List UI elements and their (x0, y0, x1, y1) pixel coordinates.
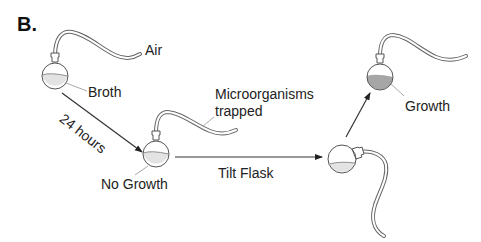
growth-label: Growth (405, 99, 450, 113)
flask-neck (352, 147, 364, 159)
flask-neck (51, 53, 59, 62)
flask-growth (367, 35, 466, 96)
air-label: Air (145, 43, 162, 57)
tilt-flask-label: Tilt Flask (218, 166, 273, 180)
broth-leader-line (66, 83, 87, 91)
swan-neck-tube (360, 152, 386, 236)
trapped-leader-line (203, 117, 214, 126)
swan-neck-tube (380, 35, 466, 60)
trapped-label: trapped (215, 104, 262, 118)
no-growth-label: No Growth (101, 177, 168, 191)
panel-label: B. (17, 14, 37, 34)
no-growth-leader-line (135, 166, 148, 175)
growth-leader-line (391, 84, 404, 96)
broth-label: Broth (88, 85, 121, 99)
flask-tilted (328, 145, 386, 236)
flask-neck (376, 54, 384, 63)
arrow-to-growth (346, 93, 370, 137)
growth-fill (367, 75, 393, 90)
swan-neck-tube (55, 32, 140, 58)
flask-neck (152, 131, 160, 140)
microorganisms-label: Microorganisms (215, 87, 314, 101)
flask-initial (42, 32, 140, 91)
